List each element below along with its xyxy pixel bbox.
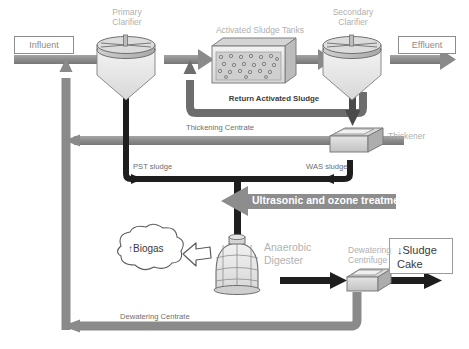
pst-sludge-label: PST sludge [133, 163, 172, 172]
activated-sludge-tanks-icon [212, 38, 296, 83]
effluent-box: Effluent [398, 36, 456, 54]
activated-sludge-tanks-label: Activated Sludge Tanks [206, 26, 314, 36]
dewatering-centrate-label: Dewatering Centrate [120, 313, 190, 322]
recycle-return-riser [60, 58, 73, 330]
influent-box: Influent [14, 36, 74, 54]
biogas-label: ↑Biogas [128, 243, 164, 254]
dewatering-centrifuge-icon [347, 269, 391, 291]
was-sludge-label: WAS sludge [306, 163, 348, 172]
effluent-label: Effluent [412, 40, 442, 50]
thickening-centrate-label: Thickening Centrate [186, 124, 254, 133]
thickener-icon [330, 128, 383, 152]
influent-label: Influent [29, 40, 59, 50]
process-flow-diagram: Influent Effluent ↓Sludge Cake Primary C… [0, 0, 469, 349]
secondary-clarifier-label: Secondary Clarifier [322, 8, 384, 27]
return-activated-sludge-label: Return Activated Sludge [204, 95, 344, 104]
dewatering-centrate-pipe [62, 292, 357, 333]
biogas-outflow-arrow [183, 243, 211, 266]
secondary-clarifier-icon [323, 35, 381, 100]
dewatering-centrifuge-label: Dewatering Centrifuge [348, 246, 412, 265]
thickener-label: Thickener [388, 132, 442, 142]
primary-clarifier-label: Primary Clarifier [96, 8, 158, 27]
anaerobic-digester-label: Anaerobic Digester [264, 241, 344, 267]
anaerobic-digester-icon [214, 234, 260, 294]
digested-sludge-arrow [280, 272, 347, 289]
primary-clarifier-icon [97, 35, 155, 100]
ultrasonic-ozone-treatment-label: Ultrasonic and ozone treatment [252, 194, 409, 206]
